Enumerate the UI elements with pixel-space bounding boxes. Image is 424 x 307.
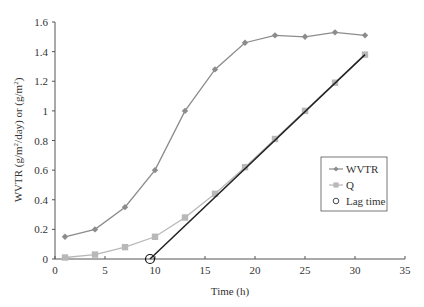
square-marker — [62, 254, 68, 260]
legend-item-label: Q — [346, 179, 354, 191]
x-tick-label: 0 — [52, 264, 58, 276]
y-tick-label: 0 — [43, 253, 49, 265]
x-tick-label: 20 — [250, 264, 262, 276]
diamond-marker — [272, 32, 278, 38]
legend-item-label: Lag time — [346, 195, 386, 207]
y-tick-label: 0.4 — [34, 194, 48, 206]
x-tick-label: 25 — [300, 264, 312, 276]
square-marker — [333, 182, 338, 187]
y-tick-label: 1 — [43, 105, 49, 117]
diamond-marker — [62, 234, 68, 240]
diamond-marker — [332, 29, 338, 35]
axes: 0510152025303500.20.40.60.811.21.41.6 — [34, 16, 411, 276]
square-marker — [92, 251, 98, 257]
y-axis-title: WVTR (g/m2/day) or (g/m2) — [12, 77, 25, 202]
wvtr-line — [65, 32, 365, 236]
y-tick-label: 0.6 — [34, 164, 48, 176]
x-tick-label: 35 — [400, 264, 412, 276]
diamond-marker — [302, 34, 308, 40]
x-tick-label: 30 — [350, 264, 362, 276]
y-tick-label: 0.2 — [34, 223, 48, 235]
x-tick-label: 5 — [102, 264, 108, 276]
legend: WVTRQLag time — [321, 157, 387, 211]
plot-area — [62, 29, 368, 263]
q-line — [65, 55, 365, 258]
x-axis-title: Time (h) — [211, 285, 250, 298]
square-marker — [122, 244, 128, 250]
chart: 0510152025303500.20.40.60.811.21.41.6 WV… — [0, 0, 424, 307]
x-tick-label: 15 — [200, 264, 212, 276]
y-tick-label: 1.6 — [34, 16, 48, 28]
diamond-marker — [362, 32, 368, 38]
square-marker — [182, 214, 188, 220]
y-tick-label: 1.2 — [34, 75, 48, 87]
y-tick-label: 0.8 — [34, 135, 48, 147]
square-marker — [152, 234, 158, 240]
legend-item-label: WVTR — [346, 163, 379, 175]
y-tick-label: 1.4 — [34, 46, 48, 58]
x-tick-label: 10 — [150, 264, 162, 276]
